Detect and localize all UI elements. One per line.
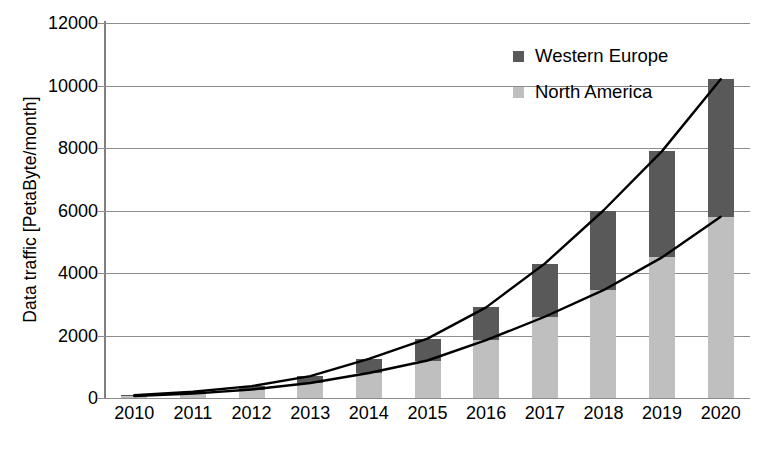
legend-swatch-icon bbox=[513, 87, 524, 98]
gridline bbox=[105, 398, 750, 399]
legend-item: North America bbox=[513, 74, 753, 110]
bar-segment-north-america bbox=[649, 257, 675, 398]
bar-group bbox=[297, 23, 323, 398]
chart-legend: Western EuropeNorth America bbox=[513, 38, 753, 110]
bar-segment-western-europe bbox=[415, 339, 441, 361]
bar-segment-north-america bbox=[121, 396, 147, 398]
y-tick-mark bbox=[98, 23, 105, 24]
x-tick-label: 2011 bbox=[160, 404, 226, 422]
bar-segment-western-europe bbox=[473, 307, 499, 340]
bar-segment-north-america bbox=[356, 373, 382, 398]
bar-segment-western-europe bbox=[532, 264, 558, 317]
legend-item: Western Europe bbox=[513, 38, 753, 74]
x-tick-label: 2016 bbox=[453, 404, 519, 422]
y-tick-mark bbox=[98, 273, 105, 274]
y-tick-mark bbox=[98, 211, 105, 212]
bar-segment-north-america bbox=[415, 361, 441, 399]
bar-segment-western-europe bbox=[121, 395, 147, 396]
y-tick-label: 6000 bbox=[26, 202, 98, 220]
y-tick-label: 8000 bbox=[26, 139, 98, 157]
x-tick-label: 2013 bbox=[277, 404, 343, 422]
x-tick-label: 2019 bbox=[629, 404, 695, 422]
bar-segment-north-america bbox=[180, 394, 206, 398]
x-axis-tick-labels: 2010201120122013201420152016201720182019… bbox=[105, 404, 750, 434]
x-tick-label: 2018 bbox=[570, 404, 636, 422]
chart-container: Data traffic [PetaByte/month] 0200040006… bbox=[0, 0, 774, 449]
y-tick-mark bbox=[98, 148, 105, 149]
y-tick-label: 4000 bbox=[26, 264, 98, 282]
bar-segment-north-america bbox=[239, 390, 265, 398]
x-tick-label: 2020 bbox=[688, 404, 754, 422]
y-tick-mark bbox=[98, 336, 105, 337]
bar-segment-north-america bbox=[297, 383, 323, 398]
legend-label: North America bbox=[535, 83, 652, 102]
y-tick-mark bbox=[98, 86, 105, 87]
y-tick-label: 0 bbox=[26, 389, 98, 407]
bar-group bbox=[473, 23, 499, 398]
bar-segment-north-america bbox=[708, 217, 734, 398]
bar-segment-western-europe bbox=[356, 359, 382, 373]
bar-segment-western-europe bbox=[239, 386, 265, 389]
bar-segment-north-america bbox=[473, 340, 499, 398]
x-tick-label: 2015 bbox=[395, 404, 461, 422]
y-tick-mark bbox=[98, 398, 105, 399]
x-tick-label: 2010 bbox=[101, 404, 167, 422]
bar-group bbox=[415, 23, 441, 398]
bar-segment-north-america bbox=[532, 317, 558, 398]
y-tick-label: 2000 bbox=[26, 327, 98, 345]
bar-segment-western-europe bbox=[180, 392, 206, 394]
x-tick-label: 2017 bbox=[512, 404, 578, 422]
bar-segment-north-america bbox=[590, 290, 616, 398]
bar-group bbox=[239, 23, 265, 398]
legend-swatch-icon bbox=[513, 51, 524, 62]
y-tick-label: 12000 bbox=[26, 14, 98, 32]
bar-group bbox=[180, 23, 206, 398]
bar-group bbox=[356, 23, 382, 398]
bar-segment-western-europe bbox=[297, 376, 323, 383]
x-tick-label: 2012 bbox=[219, 404, 285, 422]
y-axis-tick-labels: 020004000600080001000012000 bbox=[26, 0, 98, 449]
x-tick-label: 2014 bbox=[336, 404, 402, 422]
bar-group bbox=[121, 23, 147, 398]
y-tick-label: 10000 bbox=[26, 77, 98, 95]
legend-label: Western Europe bbox=[535, 47, 668, 66]
bar-segment-western-europe bbox=[649, 151, 675, 257]
bar-segment-western-europe bbox=[590, 211, 616, 291]
